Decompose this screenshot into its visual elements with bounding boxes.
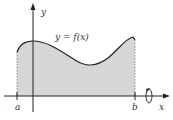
function-label: y = f(x) xyxy=(54,32,89,42)
x-axis-label: x xyxy=(159,102,164,112)
label-a: a xyxy=(15,102,20,112)
label-b: b xyxy=(132,102,138,112)
y-axis-arrow-icon xyxy=(31,3,36,10)
y-axis-label: y xyxy=(40,7,47,17)
x-axis-arrow-icon xyxy=(163,94,170,99)
shaded-region xyxy=(17,37,135,96)
solid-of-revolution-diagram: y y = f(x) a b x xyxy=(0,0,173,120)
